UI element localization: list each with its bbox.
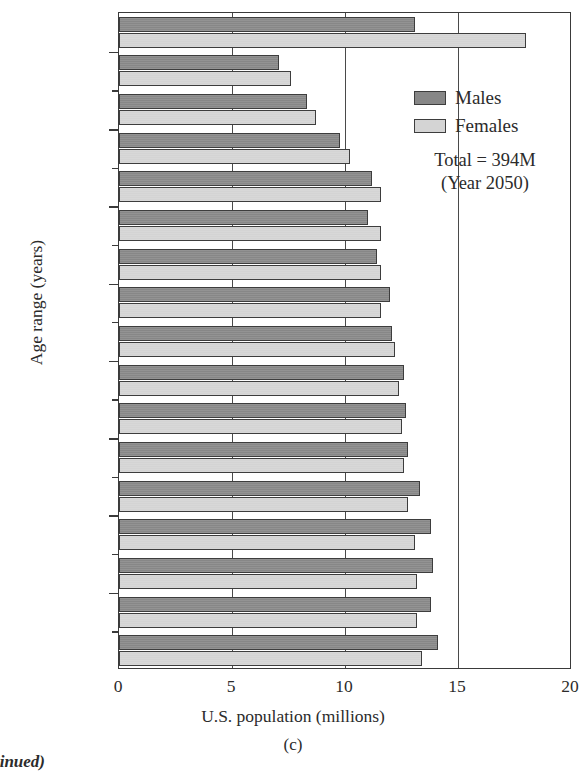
y-axis-tick (112, 168, 119, 169)
y-axis-tick (112, 322, 119, 323)
x-tick-label-10: 10 (335, 676, 353, 697)
age-group-row (119, 399, 570, 438)
bar-female (119, 535, 415, 550)
bar-female (119, 226, 381, 241)
y-axis-tick (112, 245, 119, 246)
bar-male (119, 171, 372, 186)
y-axis-tick (112, 90, 119, 91)
continued-note: (Continued) (0, 752, 74, 772)
age-group-row (119, 515, 570, 554)
age-group-row (119, 245, 570, 284)
bar-male (119, 597, 431, 612)
y-axis-tick (109, 593, 119, 595)
bar-male (119, 17, 415, 32)
legend-label-females: Females (455, 116, 518, 135)
y-axis-tick (112, 399, 119, 400)
age-group-row (119, 593, 570, 632)
age-group-row (119, 322, 570, 361)
y-axis-tick (109, 206, 119, 208)
bar-male (119, 55, 279, 70)
bar-male (119, 94, 307, 109)
bar-male (119, 519, 431, 534)
bar-male (119, 558, 433, 573)
x-axis-title: U.S. population (millions) (0, 706, 586, 727)
bar-female (119, 149, 350, 164)
legend: Males Females Total = 394M (Year 2050) (414, 86, 574, 195)
age-group-row (119, 361, 570, 400)
bar-male (119, 365, 404, 380)
x-tick-label-15: 15 (448, 676, 466, 697)
bar-female (119, 497, 408, 512)
bar-female (119, 651, 422, 666)
bar-male (119, 133, 340, 148)
y-axis-tick (112, 477, 119, 478)
y-axis-tick (109, 52, 119, 54)
bar-female (119, 613, 417, 628)
age-group-row (119, 631, 570, 670)
bar-female (119, 458, 404, 473)
bar-female (119, 574, 417, 589)
age-group-row (119, 438, 570, 477)
y-axis-tick (109, 361, 119, 363)
y-axis-tick (109, 129, 119, 131)
figure-page: Age range (years) 80+ 70 to 74 60 to 64 … (0, 0, 586, 772)
bar-female (119, 71, 291, 86)
age-group-row (119, 52, 570, 91)
age-group-row (119, 13, 570, 52)
bar-male (119, 403, 406, 418)
bar-male (119, 326, 392, 341)
legend-total-annotation: Total = 394M (414, 149, 556, 172)
x-tick-label-0: 0 (114, 676, 123, 697)
y-axis-title: Age range (years) (26, 203, 47, 403)
y-axis-tick (109, 284, 119, 286)
x-tick-label-5: 5 (227, 676, 236, 697)
x-tick-label-20: 20 (561, 676, 579, 697)
legend-swatch-females-icon (414, 119, 446, 133)
age-group-row (119, 477, 570, 516)
age-group-row (119, 206, 570, 245)
bar-female (119, 187, 381, 202)
bar-female (119, 419, 402, 434)
legend-item-males: Males (414, 86, 574, 109)
legend-label-males: Males (455, 88, 501, 107)
bar-male (119, 635, 438, 650)
age-group-row (119, 554, 570, 593)
y-axis-tick (109, 438, 119, 440)
y-axis-tick (112, 554, 119, 555)
bar-male (119, 481, 420, 496)
y-axis-tick (112, 631, 119, 632)
bar-male (119, 442, 408, 457)
bar-male (119, 287, 390, 302)
bar-female (119, 265, 381, 280)
legend-item-females: Females (414, 114, 574, 137)
bar-female (119, 110, 316, 125)
bar-male (119, 249, 377, 264)
legend-swatch-males-icon (414, 91, 446, 105)
continued-note-text: (Continued) (0, 752, 45, 772)
bar-female (119, 381, 399, 396)
figure-caption: (c) (0, 735, 586, 755)
bar-female (119, 33, 526, 48)
bar-male (119, 210, 368, 225)
bar-female (119, 303, 381, 318)
y-axis-tick (109, 515, 119, 517)
legend-year-annotation: (Year 2050) (414, 172, 556, 195)
age-group-row (119, 284, 570, 323)
bar-female (119, 342, 395, 357)
